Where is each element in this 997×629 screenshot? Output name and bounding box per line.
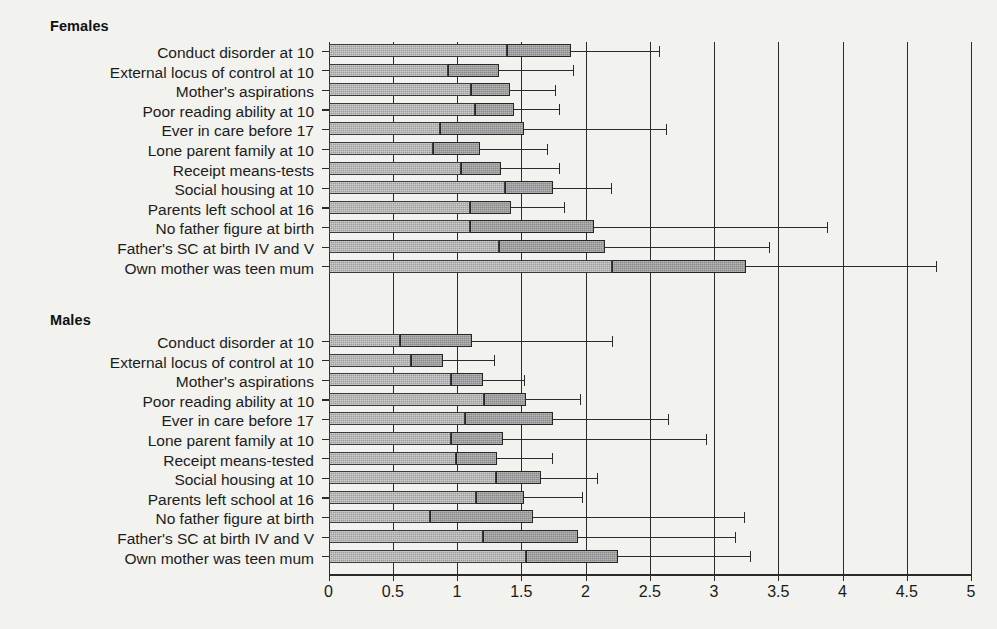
x-axis-tick-label: 2 (566, 583, 606, 601)
ci-upper-cap (573, 65, 574, 76)
bar-segment-ci-lower (329, 550, 527, 563)
ci-upper-cap (735, 532, 736, 543)
category-label: Mother's aspirations (0, 374, 320, 389)
category-axis-tick (322, 537, 329, 538)
bar-segment-estimate (411, 354, 443, 367)
bar-segment-estimate (499, 240, 604, 253)
bar-segment-estimate (451, 432, 504, 445)
bar-segment-estimate (461, 162, 501, 175)
x-axis-tick-label: 3 (694, 583, 734, 601)
x-axis-tick (843, 575, 844, 581)
category-axis-tick (322, 188, 329, 189)
category-label: Ever in care before 17 (0, 413, 320, 428)
bar-segment-ci-lower (329, 201, 470, 214)
bar-segment-estimate (526, 550, 617, 563)
category-label: Father's SC at birth IV and V (0, 531, 320, 546)
category-label: Poor reading ability at 10 (0, 394, 320, 409)
bar-segment-ci-lower (329, 64, 449, 77)
category-axis-tick (322, 458, 329, 459)
ci-upper-cap (494, 355, 495, 366)
ci-upper-cap (827, 222, 828, 233)
bar-row (329, 103, 972, 116)
ci-upper-cap (611, 183, 612, 194)
category-label: Receipt means-tested (0, 453, 320, 468)
bar-segment-ci-lower (329, 103, 475, 116)
bar-segment-ci-lower (329, 44, 508, 57)
bar-row (329, 44, 972, 57)
category-axis-tick (322, 90, 329, 91)
bar-row (329, 162, 972, 175)
bar-segment-ci-lower (329, 162, 461, 175)
bar-segment-estimate (448, 64, 499, 77)
category-axis-tick (322, 517, 329, 518)
bar-row (329, 354, 972, 367)
ci-upper-cap (559, 163, 560, 174)
category-axis-tick (322, 149, 329, 150)
category-axis-tick (322, 70, 329, 71)
group-title-females: Females (50, 18, 109, 34)
ci-upper-cap (612, 336, 613, 347)
category-axis-tick (322, 109, 329, 110)
x-axis-tick (971, 575, 972, 581)
bar-row (329, 64, 972, 77)
bar-segment-ci-lower (329, 530, 483, 543)
bar-row (329, 432, 972, 445)
bar-row (329, 412, 972, 425)
bar-row (329, 260, 972, 273)
x-axis-tick (650, 575, 651, 581)
bar-segment-ci-lower (329, 491, 477, 504)
ci-upper-cap (555, 85, 556, 96)
bar-row (329, 181, 972, 194)
x-axis-tick-label: 2.5 (630, 583, 670, 601)
bar-segment-ci-lower (329, 334, 401, 347)
category-axis-tick (322, 168, 329, 169)
bar-segment-ci-lower (329, 354, 411, 367)
bar-segment-estimate (471, 83, 510, 96)
bar-segment-estimate (451, 373, 483, 386)
ci-upper-cap (936, 261, 937, 272)
x-axis-tick-label: 3.5 (758, 583, 798, 601)
bar-row (329, 220, 972, 233)
bar-row (329, 550, 972, 563)
bar-row (329, 122, 972, 135)
bar-segment-estimate (505, 181, 554, 194)
bar-segment-estimate (465, 412, 554, 425)
bar-row (329, 471, 972, 484)
ci-upper-cap (744, 512, 745, 523)
x-axis-tick-label: 4.5 (887, 583, 927, 601)
category-axis-tick (322, 556, 329, 557)
category-axis-tick (322, 360, 329, 361)
bar-row (329, 83, 972, 96)
bar-segment-estimate (456, 452, 497, 465)
bar-row (329, 142, 972, 155)
category-label: Poor reading ability at 10 (0, 104, 320, 119)
x-axis-tick (586, 575, 587, 581)
category-label: Conduct disorder at 10 (0, 45, 320, 60)
bar-row (329, 530, 972, 543)
category-axis-tick (322, 129, 329, 130)
x-axis-tick-label: 5 (951, 583, 991, 601)
category-label: Parents left school at 16 (0, 492, 320, 507)
category-axis-tick (322, 380, 329, 381)
category-label: External locus of control at 10 (0, 65, 320, 80)
category-axis-tick (322, 247, 329, 248)
ci-upper-cap (659, 46, 660, 57)
bar-segment-estimate (475, 103, 514, 116)
category-label: Conduct disorder at 10 (0, 335, 320, 350)
bar-segment-estimate (476, 491, 524, 504)
bar-segment-ci-lower (329, 393, 484, 406)
x-axis-tick (778, 575, 779, 581)
bar-segment-ci-lower (329, 260, 613, 273)
ci-upper-cap (668, 414, 669, 425)
bar-segment-ci-lower (329, 142, 433, 155)
bar-row (329, 491, 972, 504)
category-label: Own mother was teen mum (0, 261, 320, 276)
x-axis-tick (714, 575, 715, 581)
bar-segment-ci-lower (329, 373, 451, 386)
bar-segment-ci-lower (329, 432, 451, 445)
ci-upper-cap (524, 375, 525, 386)
category-axis-tick (322, 419, 329, 420)
category-axis-tick (322, 399, 329, 400)
bar-segment-ci-lower (329, 452, 456, 465)
bar-segment-estimate (496, 471, 541, 484)
